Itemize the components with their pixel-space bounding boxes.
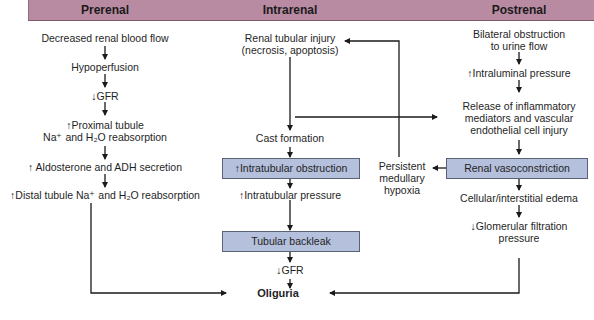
intrarenal-gfr: ↓GFR xyxy=(276,264,303,276)
postrenal-vasoconstriction-box: Renal vasoconstriction xyxy=(446,158,588,179)
postrenal-gfp-line1: ↓Glomerular filtration xyxy=(471,220,568,232)
prerenal-gfr: ↓GFR xyxy=(91,90,118,102)
postrenal-release-line1: Release of inflammatory xyxy=(462,100,575,112)
feedback-persistent: Persistent xyxy=(379,160,426,172)
intrarenal-injury-line1: Renal tubular injury xyxy=(245,32,335,44)
postrenal-obstruction-line1: Bilateral obstruction xyxy=(473,28,565,40)
prerenal-decreased-blood-flow: Decreased renal blood flow xyxy=(41,32,168,44)
feedback-hypoxia: hypoxia xyxy=(384,184,420,196)
intrarenal-injury-line2: (necrosis, apoptosis) xyxy=(242,44,339,56)
prerenal-hypoperfusion: Hypoperfusion xyxy=(71,61,139,73)
prerenal-na-h2o-reabsorption: Na⁺ and H₂O reabsorption xyxy=(43,131,167,143)
feedback-medullary: medullary xyxy=(379,172,425,184)
prerenal-proximal-tubule: ↑Proximal tubule xyxy=(66,119,144,131)
outcome-oliguria: Oliguria xyxy=(257,287,299,299)
intrarenal-backleak-box: Tubular backleak xyxy=(222,231,360,252)
postrenal-edema: Cellular/interstitial edema xyxy=(460,192,578,204)
postrenal-release-line3: endothelial cell injury xyxy=(470,124,567,136)
prerenal-aldosterone-adh: ↑ Aldosterone and ADH secretion xyxy=(28,161,182,173)
intrarenal-obstruction-box: ↑Intratubular obstruction xyxy=(222,158,360,179)
prerenal-distal-tubule: ↑Distal tubule Na⁺ and H₂O reabsorption xyxy=(10,189,200,201)
postrenal-intraluminal: ↑Intraluminal pressure xyxy=(467,67,570,79)
intrarenal-cast-formation: Cast formation xyxy=(256,132,324,144)
intrarenal-pressure: ↑Intratubular pressure xyxy=(239,189,341,201)
postrenal-obstruction-line2: to urine flow xyxy=(491,40,548,52)
postrenal-release-line2: mediators and vascular xyxy=(465,112,574,124)
postrenal-gfp-line2: pressure xyxy=(499,232,540,244)
